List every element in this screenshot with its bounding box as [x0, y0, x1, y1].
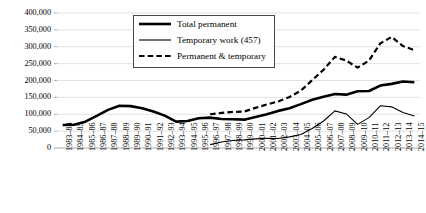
x-axis-label: 2004–05	[304, 122, 312, 151]
legend-item[interactable]: Total permanent	[134, 16, 274, 32]
x-axis-label: 1995–96	[202, 122, 210, 151]
x-axis-label: 2007–08	[338, 122, 346, 151]
x-axis-label: 2009–10	[361, 122, 369, 151]
legend-swatch-icon	[138, 19, 172, 29]
legend-item[interactable]: Permanent & temporary	[134, 48, 274, 64]
x-axis-label: 1997–98	[225, 122, 233, 151]
x-axis-label: 2001–02	[270, 122, 278, 151]
x-axis-label: 1998–99	[236, 122, 244, 151]
x-axis-label: 1993–94	[179, 122, 187, 151]
legend-item[interactable]: Temporary work (457)	[134, 32, 274, 48]
x-axis-label: 2002–03	[281, 122, 289, 151]
x-axis-label: 2013–14	[406, 122, 414, 151]
legend-label: Total permanent	[177, 19, 237, 29]
legend-swatch-icon	[138, 51, 172, 61]
x-axis-label: 2006–07	[327, 122, 335, 151]
x-axis-label: 2005–06	[315, 122, 323, 151]
x-axis-label: 1985–86	[89, 122, 97, 151]
legend-label: Temporary work (457)	[177, 35, 261, 45]
x-axis-label: 2012–13	[395, 122, 403, 151]
x-axis-label: 1992–93	[168, 122, 176, 151]
x-axis-label: 1987–88	[111, 122, 119, 151]
x-axis-label: 1986–87	[100, 122, 108, 151]
x-axis-label: 1994–95	[191, 122, 199, 151]
x-axis-label: 2003–04	[293, 122, 301, 151]
x-axis-label: 1990–91	[145, 122, 153, 151]
x-axis-label: 1996–97	[213, 122, 221, 151]
legend-label: Permanent & temporary	[177, 51, 266, 61]
x-axis-label: 1988–89	[123, 122, 131, 151]
legend-swatch-icon	[138, 35, 172, 45]
x-axis-label: 2010–11	[372, 123, 380, 151]
chart-legend: Total permanentTemporary work (457)Perma…	[133, 15, 275, 68]
x-axis-label: 2014–15	[418, 122, 426, 151]
x-axis-label: 2011–12	[383, 123, 391, 151]
x-axis-label: 1983–84	[66, 122, 74, 151]
series-line	[63, 82, 415, 126]
x-axis-label: 2000–01	[259, 122, 267, 151]
x-axis-label: 1991–92	[157, 122, 165, 151]
x-axis-label: 1984–85	[77, 122, 85, 151]
x-axis-label: 1999–00	[247, 122, 255, 151]
x-axis-label: 1989–90	[134, 122, 142, 151]
x-axis-label: 2008–09	[349, 122, 357, 151]
